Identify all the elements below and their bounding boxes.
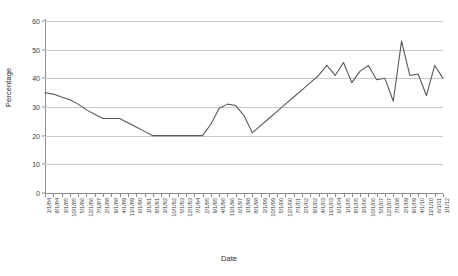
x-tick-mark	[203, 194, 204, 197]
x-tick-label: 1/1/05	[346, 198, 352, 214]
x-tick-label: 6/1/04	[337, 198, 343, 214]
x-tick-mark	[244, 194, 245, 197]
x-tick-label: 11/1/10	[429, 198, 435, 216]
x-tick-label: 8/1/05	[354, 198, 360, 214]
x-tick-label: 9/1/02	[313, 198, 319, 214]
x-axis-title: Date	[0, 254, 458, 263]
y-tick-label: 60	[32, 18, 45, 25]
x-tick-mark	[45, 194, 46, 197]
x-tick-label: 1/1/12	[445, 198, 451, 214]
x-tick-label: 6/1/90	[138, 198, 144, 214]
x-tick-label: 1/1/98	[246, 198, 252, 214]
x-tick-label: 12/1/86	[89, 198, 95, 217]
x-tick-label: 1/1/84	[47, 198, 53, 214]
x-tick-mark	[53, 194, 54, 197]
series-line	[45, 21, 443, 193]
x-tick-label: 1/1/91	[147, 198, 153, 214]
x-tick-label: 4/1/10	[420, 198, 426, 214]
x-tick-mark	[385, 194, 386, 197]
line-chart: Percentage 0102030405060 1/1/848/1/843/1…	[0, 0, 458, 276]
x-tick-mark	[153, 194, 154, 197]
x-tick-label: 5/1/93	[180, 198, 186, 214]
x-tick-label: 11/1/96	[230, 198, 236, 216]
x-tick-mark	[360, 194, 361, 197]
x-tick-mark	[443, 194, 444, 197]
x-tick-mark	[145, 194, 146, 197]
x-tick-label: 10/1/06	[371, 198, 377, 217]
x-tick-mark	[352, 194, 353, 197]
x-tick-mark	[368, 194, 369, 197]
x-tick-mark	[227, 194, 228, 197]
x-tick-label: 11/1/89	[130, 198, 136, 216]
x-tick-mark	[86, 194, 87, 197]
x-tick-label: 4/1/89	[122, 198, 128, 214]
x-tick-mark	[277, 194, 278, 197]
x-tick-mark	[269, 194, 270, 197]
x-tick-mark	[310, 194, 311, 197]
x-tick-mark	[252, 194, 253, 197]
x-tick-label: 9/1/95	[213, 198, 219, 214]
x-tick-mark	[194, 194, 195, 197]
x-tick-label: 12/1/00	[288, 198, 294, 217]
x-tick-mark	[219, 194, 220, 197]
x-tick-mark	[120, 194, 121, 197]
x-tick-mark	[344, 194, 345, 197]
x-tick-label: 12/1/93	[188, 198, 194, 217]
x-tick-mark	[377, 194, 378, 197]
y-tick-label: 20	[32, 132, 45, 139]
x-tick-mark	[70, 194, 71, 197]
x-tick-label: 11/1/03	[329, 198, 335, 216]
x-tick-mark	[236, 194, 237, 197]
x-tick-mark	[327, 194, 328, 197]
x-tick-label: 2/1/02	[304, 198, 310, 214]
y-tick-label: 30	[32, 104, 45, 111]
x-tick-label: 10/1/85	[72, 198, 78, 217]
y-axis-title: Percentage	[4, 68, 13, 107]
x-tick-mark	[418, 194, 419, 197]
x-tick-label: 7/1/94	[196, 198, 202, 214]
x-tick-label: 3/1/85	[64, 198, 70, 214]
x-tick-mark	[335, 194, 336, 197]
x-tick-label: 4/1/96	[221, 198, 227, 214]
x-tick-label: 3/1/92	[163, 198, 169, 214]
x-tick-mark	[128, 194, 129, 197]
x-tick-label: 6/1/11	[437, 198, 443, 213]
x-tick-mark	[211, 194, 212, 197]
x-tick-mark	[261, 194, 262, 197]
x-tick-mark	[426, 194, 427, 197]
x-tick-mark	[435, 194, 436, 197]
x-tick-mark	[302, 194, 303, 197]
x-tick-label: 10/1/92	[172, 198, 178, 217]
x-tick-mark	[319, 194, 320, 197]
x-tick-label: 5/1/07	[379, 198, 385, 214]
x-tick-mark	[103, 194, 104, 197]
x-tick-label: 6/1/97	[238, 198, 244, 214]
x-tick-label: 9/1/09	[412, 198, 418, 214]
x-tick-label: 3/1/06	[362, 198, 368, 214]
x-tick-label: 12/1/07	[387, 198, 393, 217]
x-tick-label: 2/1/88	[105, 198, 111, 214]
x-tick-label: 7/1/87	[97, 198, 103, 214]
x-tick-mark	[78, 194, 79, 197]
x-tick-label: 2/1/95	[205, 198, 211, 214]
x-tick-mark	[178, 194, 179, 197]
x-tick-label: 8/1/84	[55, 198, 61, 214]
x-tick-label: 10/1/99	[271, 198, 277, 217]
x-axis-tick-labels: 1/1/848/1/843/1/8510/1/855/1/8612/1/867/…	[45, 198, 443, 246]
x-tick-mark	[294, 194, 295, 197]
x-tick-mark	[186, 194, 187, 197]
y-tick-label: 10	[32, 161, 45, 168]
x-tick-label: 9/1/88	[114, 198, 120, 214]
y-tick-label: 50	[32, 46, 45, 53]
x-tick-label: 2/1/09	[404, 198, 410, 214]
x-tick-mark	[285, 194, 286, 197]
x-tick-label: 8/1/98	[254, 198, 260, 214]
y-tick-label: 40	[32, 75, 45, 82]
x-tick-label: 4/1/03	[321, 198, 327, 214]
x-tick-mark	[111, 194, 112, 197]
x-tick-mark	[62, 194, 63, 197]
x-tick-label: 5/1/00	[279, 198, 285, 214]
x-tick-label: 5/1/86	[80, 198, 86, 214]
y-tick-label: 0	[36, 190, 45, 197]
x-tick-mark	[410, 194, 411, 197]
